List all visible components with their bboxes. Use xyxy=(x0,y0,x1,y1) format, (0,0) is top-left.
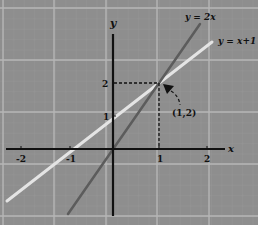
x-axis-label: x xyxy=(227,143,235,154)
label-y-equals-2x: y = 2x xyxy=(184,12,216,22)
intersection-label: (1,2) xyxy=(172,108,196,119)
x-tick-label-neg2: -2 xyxy=(16,154,26,164)
x-tick-label-neg1: -1 xyxy=(66,154,76,164)
y-tick-label-2: 2 xyxy=(102,79,108,89)
graph-canvas: y x -2 -1 1 2 1 2 y = 2x y = x+1 (1,2) xyxy=(0,0,258,225)
x-tick-label-2: 2 xyxy=(204,154,210,164)
x-tick-label-1: 1 xyxy=(157,154,163,164)
label-y-equals-x-plus-1: y = x+1 xyxy=(217,36,256,46)
y-tick-label-1: 1 xyxy=(103,112,109,122)
